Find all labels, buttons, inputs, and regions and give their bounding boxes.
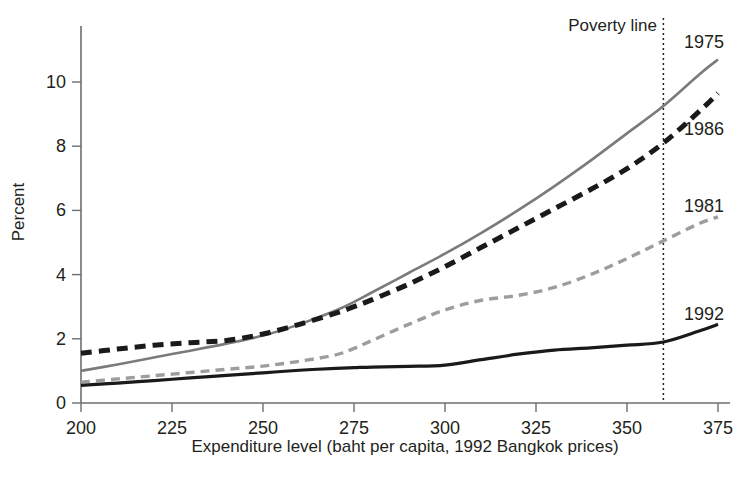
x-tick-label: 275 bbox=[339, 418, 369, 438]
y-tick-label: 2 bbox=[56, 329, 66, 349]
x-axis-title: Expenditure level (baht per capita, 1992… bbox=[191, 437, 618, 456]
series-line-1986 bbox=[81, 93, 718, 353]
series-paths-group bbox=[81, 60, 718, 386]
x-tick-label: 225 bbox=[157, 418, 187, 438]
x-tick-label: 250 bbox=[248, 418, 278, 438]
line-chart: 0246810 200225250275300325350375 Poverty… bbox=[0, 0, 748, 480]
y-axis-ticks bbox=[72, 82, 81, 403]
series-label-1981: 1981 bbox=[684, 196, 724, 216]
x-axis-ticks bbox=[81, 403, 718, 412]
y-tick-label: 8 bbox=[56, 136, 66, 156]
x-tick-label: 325 bbox=[521, 418, 551, 438]
y-axis-tick-labels: 0246810 bbox=[46, 72, 66, 413]
x-tick-label: 300 bbox=[430, 418, 460, 438]
y-tick-label: 0 bbox=[56, 393, 66, 413]
series-line-1992 bbox=[81, 324, 718, 385]
poverty-line-label: Poverty line bbox=[568, 16, 657, 35]
y-axis-title: Percent bbox=[9, 182, 28, 241]
series-line-1975 bbox=[81, 60, 718, 371]
chart-figure: 0246810 200225250275300325350375 Poverty… bbox=[0, 0, 748, 480]
series-label-1975: 1975 bbox=[684, 32, 724, 52]
x-tick-label: 375 bbox=[703, 418, 733, 438]
y-tick-label: 10 bbox=[46, 72, 66, 92]
y-tick-label: 4 bbox=[56, 265, 66, 285]
x-tick-label: 200 bbox=[66, 418, 96, 438]
y-tick-label: 6 bbox=[56, 200, 66, 220]
series-line-1981 bbox=[81, 217, 718, 382]
x-axis-tick-labels: 200225250275300325350375 bbox=[66, 418, 733, 438]
series-label-1992: 1992 bbox=[684, 304, 724, 324]
x-tick-label: 350 bbox=[612, 418, 642, 438]
series-label-1986: 1986 bbox=[684, 119, 724, 139]
